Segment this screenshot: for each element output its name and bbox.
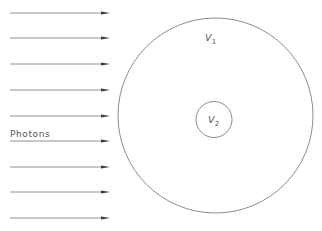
inner-volume-subscript: 2: [215, 120, 220, 128]
outer-volume-subscript: 1: [212, 38, 217, 46]
figure-canvas: V1 V2 Photons: [0, 0, 322, 231]
photon-irradiation-diagram: V1 V2 Photons: [0, 0, 322, 231]
photons-label: Photons: [10, 129, 50, 139]
